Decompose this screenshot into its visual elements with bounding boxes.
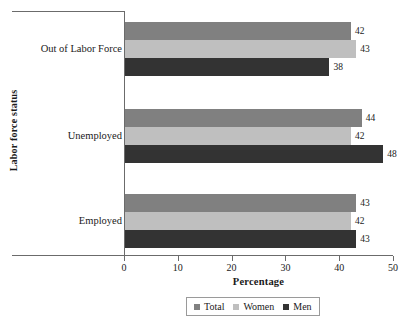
x-axis-tick <box>285 256 286 261</box>
plot-top-rule <box>12 11 125 12</box>
x-axis-tick-label: 0 <box>109 262 139 274</box>
legend-swatch-icon <box>233 304 239 310</box>
x-axis-tick <box>124 256 125 261</box>
legend-swatch-icon <box>283 304 289 310</box>
chart-legend: TotalWomenMen <box>186 297 320 316</box>
bar-women-unemployed <box>125 127 351 145</box>
bar-value-label: 42 <box>355 26 365 36</box>
bar-total-unemployed <box>125 109 362 127</box>
x-axis-line <box>12 255 393 256</box>
legend-label: Women <box>243 301 274 312</box>
x-axis-tick-label: 50 <box>378 262 405 274</box>
bar-value-label: 42 <box>355 131 365 141</box>
legend-swatch-icon <box>194 304 200 310</box>
category-label: Unemployed <box>68 130 122 142</box>
legend-label: Total <box>204 301 224 312</box>
bar-value-label: 38 <box>333 62 343 72</box>
x-axis-tick-label: 30 <box>270 262 300 274</box>
category-label: Employed <box>79 215 122 227</box>
bar-men-employed <box>125 230 356 248</box>
x-axis-tick <box>178 256 179 261</box>
x-axis-tick-label: 20 <box>217 262 247 274</box>
legend-item-total: Total <box>194 301 224 312</box>
x-axis-tick-label: 40 <box>324 262 354 274</box>
legend-item-women: Women <box>233 301 274 312</box>
bar-total-out-of-labor-force <box>125 22 351 40</box>
bar-men-unemployed <box>125 145 383 163</box>
bar-value-label: 43 <box>360 234 370 244</box>
bar-total-employed <box>125 194 356 212</box>
bar-women-employed <box>125 212 351 230</box>
x-axis-tick <box>232 256 233 261</box>
bar-value-label: 43 <box>360 44 370 54</box>
legend-item-men: Men <box>283 301 311 312</box>
bar-value-label: 43 <box>360 198 370 208</box>
bar-value-label: 42 <box>355 216 365 226</box>
bar-men-out-of-labor-force <box>125 58 329 76</box>
bar-chart: 01020304050 EmployedUnemployedOut of Lab… <box>0 0 405 327</box>
x-axis-title: Percentage <box>124 276 393 287</box>
legend-label: Men <box>293 301 311 312</box>
bar-value-label: 44 <box>366 113 376 123</box>
category-label: Out of Labor Force <box>41 43 122 55</box>
x-axis-zero-tick <box>124 249 125 256</box>
x-axis-tick <box>393 256 394 261</box>
x-axis-tick <box>339 256 340 261</box>
bar-value-label: 48 <box>387 149 397 159</box>
bar-women-out-of-labor-force <box>125 40 356 58</box>
y-axis-title: Labor force status <box>8 56 19 206</box>
x-axis-tick-label: 10 <box>163 262 193 274</box>
